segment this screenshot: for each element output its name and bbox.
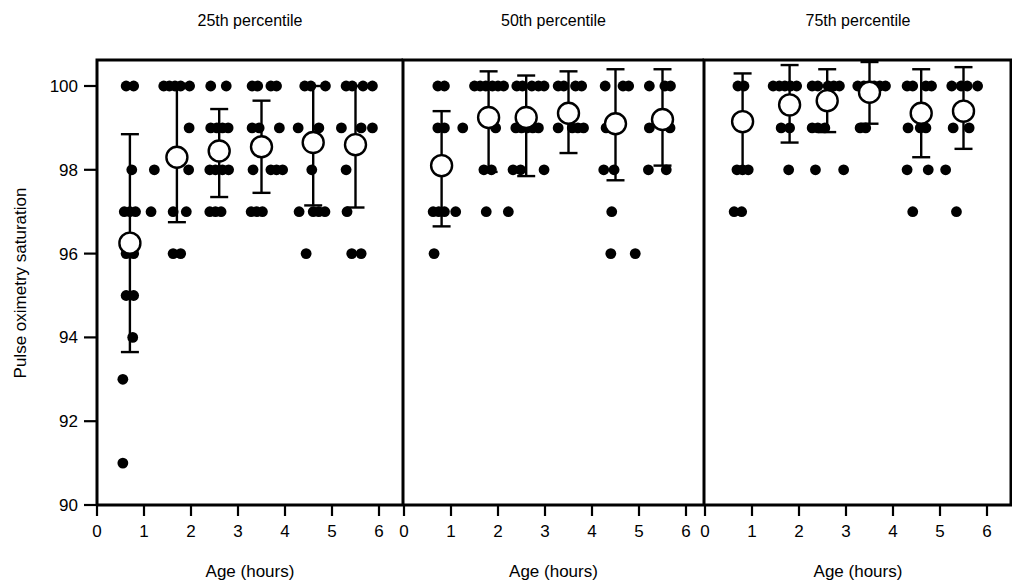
x-tick-label-2: 2 [794, 522, 803, 541]
data-point [498, 81, 509, 92]
data-point [274, 123, 285, 134]
pulse-oximetry-scatter-chart: 25th percentile50th percentile75th perce… [0, 0, 1012, 585]
data-point [320, 206, 331, 217]
data-point [791, 81, 802, 92]
data-point [609, 164, 620, 175]
data-point [515, 164, 526, 175]
data-point [346, 248, 357, 259]
mean-marker [558, 103, 579, 124]
data-point [367, 123, 378, 134]
data-point [606, 206, 617, 217]
data-point [301, 248, 312, 259]
data-point [149, 164, 160, 175]
data-point [248, 164, 259, 175]
data-point [271, 81, 282, 92]
data-point [221, 81, 232, 92]
data-point [972, 81, 983, 92]
data-point [598, 164, 609, 175]
mean-marker [251, 136, 272, 157]
y-tick-label-98: 98 [59, 161, 78, 180]
data-point [277, 164, 288, 175]
x-tick-label-6: 6 [374, 522, 383, 541]
mean-marker [303, 132, 324, 153]
x-tick-label-3: 3 [540, 522, 549, 541]
x-tick-label-6: 6 [982, 522, 991, 541]
data-point [481, 206, 492, 217]
data-point [644, 81, 655, 92]
x-tick-label-4: 4 [587, 522, 596, 541]
data-point [117, 374, 128, 385]
panel-title-1: 25th percentile [198, 12, 303, 29]
data-point [175, 248, 186, 259]
data-point [130, 206, 141, 217]
data-point [940, 164, 951, 175]
data-point [336, 123, 347, 134]
mean-marker [953, 101, 974, 122]
data-point [964, 123, 975, 134]
mean-marker [166, 147, 187, 168]
y-tick-label-100: 100 [50, 77, 78, 96]
y-tick-label-92: 92 [59, 412, 78, 431]
x-tick-label-6: 6 [681, 522, 690, 541]
figure-container: 25th percentile50th percentile75th perce… [0, 0, 1012, 585]
data-point [128, 81, 139, 92]
panel-title-2: 50th percentile [501, 12, 606, 29]
mean-marker [859, 82, 880, 103]
data-point [306, 164, 317, 175]
x-tick-label-2: 2 [186, 522, 195, 541]
x-tick-label-4: 4 [280, 522, 289, 541]
data-point [623, 81, 634, 92]
data-point [907, 206, 918, 217]
data-point [257, 206, 268, 217]
data-point [576, 81, 587, 92]
data-point [367, 81, 378, 92]
y-axis-title: Pulse oximetry saturation [11, 188, 30, 379]
data-point [356, 248, 367, 259]
data-point [216, 206, 227, 217]
data-point [810, 164, 821, 175]
y-tick-label-96: 96 [59, 245, 78, 264]
x-tick-label-3: 3 [841, 522, 850, 541]
mean-marker [209, 140, 230, 161]
mean-marker [345, 134, 366, 155]
data-point [223, 123, 234, 134]
data-point [503, 206, 514, 217]
x-tick-label-1: 1 [446, 522, 455, 541]
data-point [600, 81, 611, 92]
data-point [838, 164, 849, 175]
data-point [341, 164, 352, 175]
x-tick-label-0: 0 [92, 522, 101, 541]
y-tick-label-94: 94 [59, 328, 78, 347]
x-axis-title-3: Age (hours) [814, 562, 903, 581]
data-point [578, 123, 589, 134]
data-point [252, 81, 263, 92]
data-point [539, 81, 550, 92]
x-axis-title-2: Age (hours) [509, 562, 598, 581]
data-point [457, 123, 468, 134]
x-tick-label-5: 5 [327, 522, 336, 541]
data-point [665, 81, 676, 92]
x-tick-label-2: 2 [493, 522, 502, 541]
x-tick-label-5: 5 [935, 522, 944, 541]
x-tick-label-5: 5 [634, 522, 643, 541]
mean-marker [431, 155, 452, 176]
data-point [643, 164, 654, 175]
data-point [946, 81, 957, 92]
data-point [117, 458, 128, 469]
data-point [429, 248, 440, 259]
mean-marker [732, 111, 753, 132]
data-point [812, 81, 823, 92]
mean-marker [779, 94, 800, 115]
x-tick-label-1: 1 [139, 522, 148, 541]
mean-marker [605, 113, 626, 134]
x-axis-title-1: Age (hours) [206, 562, 295, 581]
data-point [783, 164, 794, 175]
data-point [951, 206, 962, 217]
data-point [553, 123, 564, 134]
data-point [834, 81, 845, 92]
data-point [923, 164, 934, 175]
data-point [539, 164, 550, 175]
mean-marker [516, 107, 537, 128]
panel-title-3: 75th percentile [806, 12, 911, 29]
data-point [736, 206, 747, 217]
